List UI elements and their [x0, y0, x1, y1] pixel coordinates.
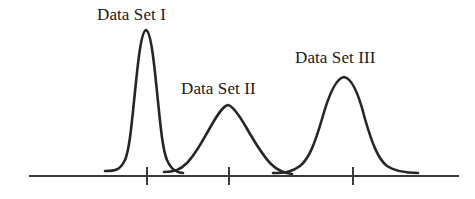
curve-label-dataset-2: Data Set II: [181, 79, 256, 99]
distribution-figure: Data Set I Data Set II Data Set III: [0, 0, 475, 199]
curve-dataset-3: [273, 77, 418, 173]
curve-label-dataset-1: Data Set I: [97, 5, 166, 25]
curve-dataset-1: [105, 30, 183, 173]
curve-label-dataset-3: Data Set III: [295, 48, 376, 68]
plot-canvas: [0, 0, 475, 199]
curve-dataset-2: [164, 105, 292, 174]
